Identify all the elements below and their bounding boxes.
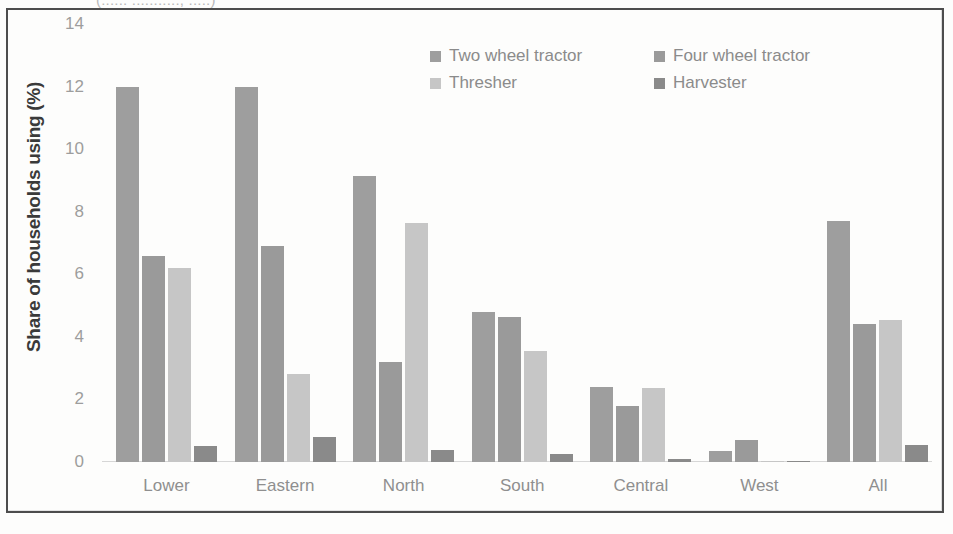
bar[interactable] (642, 388, 665, 462)
bar[interactable] (709, 451, 732, 462)
bar[interactable] (550, 454, 573, 462)
y-axis-tick-label: 14 (65, 14, 84, 34)
legend-swatch-icon (430, 78, 441, 89)
bar[interactable] (827, 221, 850, 462)
bar[interactable] (879, 320, 902, 462)
x-axis-tick-label: All (813, 476, 932, 496)
x-axis-tick-label: West (695, 476, 814, 496)
y-axis-tick-label: 8 (74, 202, 83, 222)
bar[interactable] (524, 351, 547, 462)
legend-label: Thresher (449, 73, 517, 93)
bar[interactable] (431, 450, 454, 463)
bar[interactable] (498, 317, 521, 462)
bar[interactable] (168, 268, 191, 462)
x-axis-tick-label: North (339, 476, 458, 496)
x-axis-tick-label: Lower (102, 476, 221, 496)
bar[interactable] (313, 437, 336, 462)
bar[interactable] (379, 362, 402, 462)
bar[interactable] (853, 324, 876, 462)
bar[interactable] (235, 87, 258, 462)
bar-group: Eastern (221, 24, 340, 462)
bar[interactable] (142, 256, 165, 462)
legend-swatch-icon (430, 51, 441, 62)
x-axis-tick-label: Central (576, 476, 695, 496)
y-axis-title: Share of households using (%) (23, 37, 45, 397)
y-axis-tick-label: 2 (74, 389, 83, 409)
chart-legend: Two wheel tractorFour wheel tractorThres… (430, 46, 890, 93)
bar[interactable] (194, 446, 217, 462)
x-axis-tick-label: South (458, 476, 577, 496)
legend-label: Harvester (673, 73, 747, 93)
legend-item[interactable]: Two wheel tractor (430, 46, 648, 66)
y-axis-tick-label: 10 (65, 139, 84, 159)
bar[interactable] (905, 445, 928, 462)
legend-swatch-icon (654, 51, 665, 62)
bar[interactable] (472, 312, 495, 462)
legend-label: Two wheel tractor (449, 46, 582, 66)
bar[interactable] (116, 87, 139, 462)
chart-page: (:::::: :::::::::::, :::::) Share of hou… (0, 0, 953, 534)
bar[interactable] (590, 387, 613, 462)
legend-swatch-icon (654, 78, 665, 89)
y-axis-tick-label: 12 (65, 77, 84, 97)
legend-item[interactable]: Harvester (654, 73, 872, 93)
bar-group: Lower (102, 24, 221, 462)
bar[interactable] (616, 406, 639, 462)
bar[interactable] (668, 459, 691, 462)
bar[interactable] (287, 374, 310, 462)
bar[interactable] (735, 440, 758, 462)
bar[interactable] (261, 246, 284, 462)
y-axis-tick-label: 4 (74, 327, 83, 347)
legend-item[interactable]: Four wheel tractor (654, 46, 872, 66)
bar[interactable] (353, 176, 376, 462)
bar-chart: Share of households using (%) 0246810121… (6, 8, 944, 513)
clipped-caption-text: (:::::: :::::::::::, :::::) (96, 0, 216, 8)
legend-label: Four wheel tractor (673, 46, 810, 66)
bar[interactable] (761, 461, 784, 462)
legend-item[interactable]: Thresher (430, 73, 648, 93)
bar[interactable] (405, 223, 428, 462)
x-axis-tick-label: Eastern (221, 476, 340, 496)
bar[interactable] (787, 461, 810, 462)
y-axis-tick-label: 6 (74, 264, 83, 284)
y-axis-tick-label: 0 (74, 452, 83, 472)
